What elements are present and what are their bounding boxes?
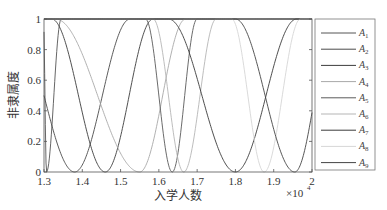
curve-a4	[44, 19, 312, 172]
y-tick-label: 0.6	[27, 74, 41, 86]
curve-a6	[44, 19, 312, 172]
y-tick-label: 0.4	[27, 105, 41, 117]
curve-a2	[44, 19, 312, 172]
x-tick-label: 1.5	[114, 175, 128, 187]
curve-a8	[44, 19, 312, 172]
y-tick-label: 0	[36, 166, 42, 178]
y-axis-title: 非隶属度	[6, 71, 21, 119]
curve-a1	[44, 19, 312, 172]
x-multiplier-exponent: 4	[307, 184, 311, 192]
x-tick-label: 1.4	[75, 175, 89, 187]
y-tick-label: 1	[36, 13, 42, 25]
plot-curves	[44, 19, 312, 172]
x-axis-title: 入学人数	[154, 188, 202, 203]
y-axis-ticks: 00.20.40.60.81	[27, 13, 312, 178]
plot-frame	[44, 19, 312, 172]
x-tick-label: 1.6	[152, 175, 166, 187]
x-tick-label: 1.7	[190, 175, 204, 187]
curve-a9	[44, 19, 312, 172]
curve-a7	[44, 19, 312, 172]
y-tick-label: 0.2	[27, 135, 41, 147]
membership-chart: 1.31.41.51.61.71.81.92 00.20.40.60.81 入学…	[0, 0, 387, 210]
y-tick-label: 0.8	[27, 44, 41, 56]
curve-a5	[44, 19, 312, 172]
x-tick-label: 1.8	[229, 175, 243, 187]
curve-a3	[44, 19, 312, 172]
x-multiplier: ×10 4	[286, 184, 311, 199]
x-multiplier-base: ×10	[286, 187, 304, 199]
x-tick-label: 1.9	[267, 175, 281, 187]
